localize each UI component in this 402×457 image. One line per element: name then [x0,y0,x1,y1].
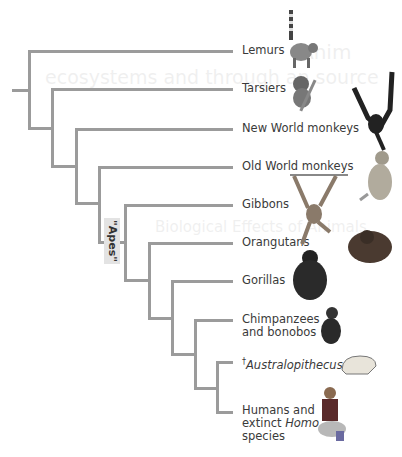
branch-gorillas [171,280,233,283]
branch [28,127,53,130]
branch [124,204,127,281]
branch-humans [216,411,233,414]
branch [216,361,219,414]
branch-new-world [75,128,233,131]
branch-australopithecus [216,361,233,364]
branch-chimps [194,319,233,322]
branch [98,166,101,244]
taxon-label: Gibbons [242,198,289,211]
branch [171,280,174,355]
taxon-label: Gorillas [242,274,285,287]
human-illustration-icon [316,385,348,445]
taxon-label: Chimpanzees and bonobos [242,313,320,339]
taxon-label: Humans and extinct Homo species [242,404,319,443]
apes-group-label: "Apes" [104,218,120,264]
branch [51,88,54,168]
branch-orangutans [148,242,233,245]
bleed-text: ecosystems and through an source [45,66,379,88]
branch [51,165,76,168]
branch-gibbons [124,204,233,207]
lemur-illustration-icon [285,8,321,70]
branch [28,50,31,129]
macaque-illustration-icon [358,148,398,206]
branch-lemurs [28,50,233,53]
branch [148,317,173,320]
branch [171,353,196,356]
taxon-label: Lemurs [242,44,285,57]
branch [148,242,151,319]
chimpanzee-illustration-icon [318,305,344,345]
branch [75,128,78,205]
branch [75,202,100,205]
taxon-label: †Australopithecus [242,355,343,372]
orangutan-illustration-icon [345,225,395,267]
gibbon-illustration-icon [290,172,350,248]
taxon-label: New World monkeys [242,122,359,135]
branch [124,279,150,282]
gorilla-illustration-icon [290,248,330,306]
branch-old-world [98,166,233,169]
tarsier-illustration-icon [287,74,319,114]
taxon-label: Tarsiers [242,82,286,95]
branch [12,89,29,92]
branch-tarsiers [51,88,233,91]
branch [194,319,197,389]
spider-monkey-illustration-icon [350,70,398,154]
skull-illustration-icon [338,352,380,378]
